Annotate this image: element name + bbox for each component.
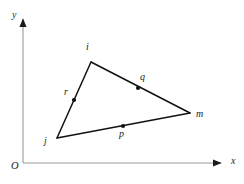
midpoint-label-p: p — [119, 129, 124, 139]
figure-canvas — [0, 0, 244, 184]
midpoint-dot-r — [72, 98, 76, 102]
vertex-label-i: i — [86, 42, 89, 52]
vertex-label-m: m — [196, 109, 203, 119]
y-axis-label: y — [12, 10, 16, 20]
midpoint-dots-group — [72, 86, 140, 128]
geometry-figure: y x O i m j q p r — [0, 0, 244, 184]
origin-label: O — [11, 161, 19, 172]
edge-i-m — [91, 62, 190, 113]
x-axis-label: x — [231, 156, 235, 166]
midpoint-dot-q — [136, 86, 140, 90]
vertex-label-j: j — [44, 136, 47, 146]
midpoint-label-r: r — [64, 87, 68, 97]
axes-group — [23, 19, 221, 163]
midpoint-label-q: q — [140, 72, 145, 82]
